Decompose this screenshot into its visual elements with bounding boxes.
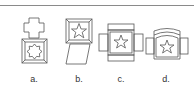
option-c-label: c.	[111, 74, 131, 84]
option-c-figure	[99, 24, 143, 61]
option-d-label: d.	[156, 74, 176, 84]
option-b-label: b.	[69, 74, 89, 84]
option-d-figure	[146, 29, 188, 60]
option-b-figure	[66, 19, 92, 64]
option-a-label: a.	[24, 74, 44, 84]
option-a-figure	[22, 18, 47, 63]
